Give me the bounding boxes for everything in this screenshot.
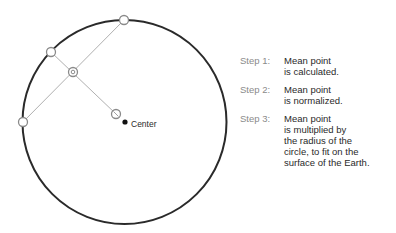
step-text-line: Mean point — [284, 113, 370, 124]
step-text-line: Mean point — [284, 84, 343, 95]
step-text-line: is calculated. — [284, 66, 339, 77]
earth-circle-diagram: Center — [0, 0, 240, 233]
step-text-line: is normalized. — [284, 95, 343, 106]
point-upper-left — [47, 48, 56, 57]
step-text: Mean point is multiplied by the radius o… — [284, 113, 370, 168]
step-text-line: Mean point — [284, 55, 339, 66]
step-text-line: circle, to fit on the — [284, 146, 370, 157]
point-left — [19, 118, 28, 127]
step-2: Step 2: Mean point is normalized. — [240, 84, 370, 106]
center-dot — [122, 119, 127, 124]
step-text-line: is multiplied by — [284, 124, 370, 135]
center-label: Center — [131, 119, 157, 129]
step-1: Step 1: Mean point is calculated. — [240, 55, 370, 77]
step-label: Step 3: — [240, 113, 284, 168]
step-3: Step 3: Mean point is multiplied by the … — [240, 113, 370, 168]
step-label: Step 2: — [240, 84, 284, 106]
step-text: Mean point is normalized. — [284, 84, 343, 106]
mean-point — [69, 68, 78, 77]
step-text-line: the radius of the — [284, 135, 370, 146]
step-text-line: surface of the Earth. — [284, 157, 370, 168]
steps-legend: Step 1: Mean point is calculated. Step 2… — [240, 55, 370, 175]
step-text: Mean point is calculated. — [284, 55, 339, 77]
point-top — [120, 16, 129, 25]
step-label: Step 1: — [240, 55, 284, 77]
